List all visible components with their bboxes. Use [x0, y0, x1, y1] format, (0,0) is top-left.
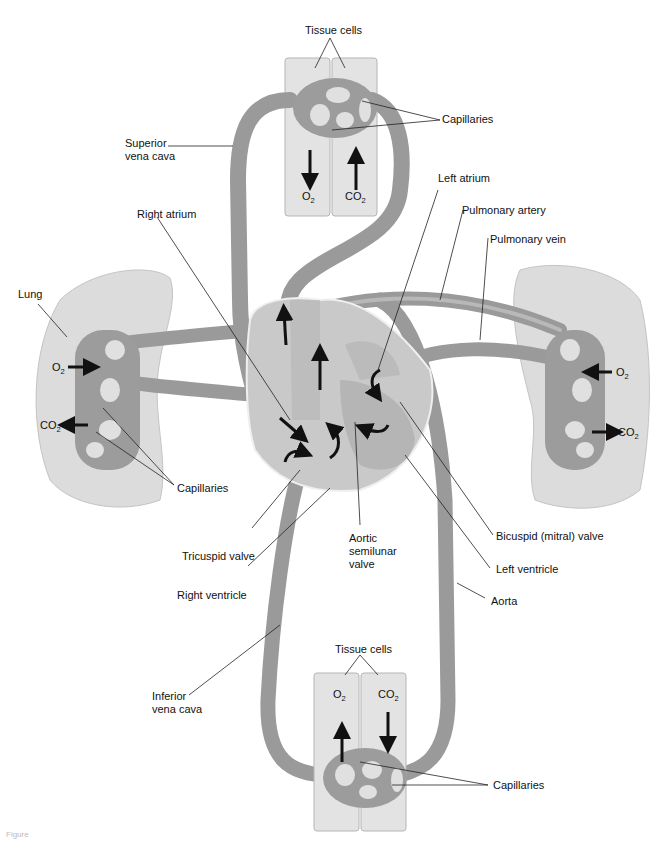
- label-aortic-valve-3: valve: [349, 558, 375, 570]
- label-left-ventricle: Left ventricle: [496, 563, 558, 575]
- label-tissue-cells-top: Tissue cells: [305, 24, 363, 36]
- capillaries-right-lung: [545, 330, 605, 470]
- label-aorta: Aorta: [491, 595, 518, 607]
- label-aortic-valve-2: semilunar: [349, 545, 397, 557]
- label-pulmonary-vein: Pulmonary vein: [490, 233, 566, 245]
- label-inferior-vena-cava-1: Inferior: [152, 690, 187, 702]
- label-aortic-valve-1: Aortic: [349, 532, 378, 544]
- capillaries-top: [293, 78, 377, 138]
- label-capillaries-bottom: Capillaries: [493, 779, 545, 791]
- figure-caption: Figure: [6, 830, 29, 839]
- label-inferior-vena-cava-2: vena cava: [152, 703, 203, 715]
- label-right-atrium: Right atrium: [137, 208, 196, 220]
- label-capillaries-top: Capillaries: [442, 113, 494, 125]
- label-lung: Lung: [18, 288, 42, 300]
- label-left-atrium: Left atrium: [438, 172, 490, 184]
- capillaries-left-lung: [75, 330, 140, 470]
- circulatory-diagram: Tissue cells Capillaries Superior vena c…: [0, 0, 665, 846]
- label-pulmonary-artery: Pulmonary artery: [462, 204, 546, 216]
- label-bicuspid-valve: Bicuspid (mitral) valve: [496, 530, 604, 542]
- label-tissue-cells-bottom: Tissue cells: [335, 643, 393, 655]
- label-superior-vena-cava-2: vena cava: [125, 150, 176, 162]
- label-right-ventricle: Right ventricle: [177, 589, 247, 601]
- label-tricuspid-valve: Tricuspid valve: [182, 550, 255, 562]
- label-capillaries-lung: Capillaries: [177, 482, 229, 494]
- capillaries-bottom: [323, 748, 407, 808]
- label-superior-vena-cava-1: Superior: [125, 137, 167, 149]
